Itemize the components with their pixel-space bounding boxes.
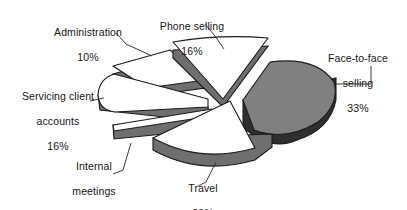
pie-label-phone-selling-value: 16% bbox=[140, 45, 244, 57]
pie-label-servicing-client-accounts-name-line2: accounts bbox=[2, 115, 114, 127]
pie-label-internal-meetings: Internal meetings 5 bbox=[42, 148, 146, 210]
pie-label-administration: Administration 10% bbox=[30, 14, 146, 76]
pie-label-servicing-client-accounts-name-line1: Servicing client bbox=[2, 90, 114, 102]
pie-label-travel: Travel 20% bbox=[155, 170, 251, 210]
pie-label-administration-name: Administration bbox=[30, 26, 146, 38]
pie-label-face-to-face-selling-name-line1: Face-to-face bbox=[312, 52, 404, 64]
pie-label-face-to-face-selling: Face-to-face selling 33% bbox=[312, 40, 404, 127]
pie-label-travel-name: Travel bbox=[155, 182, 251, 194]
pie-label-phone-selling-name: Phone selling bbox=[140, 20, 244, 32]
pie-chart: Administration 10% Phone selling 16% Fac… bbox=[0, 0, 407, 210]
pie-label-internal-meetings-name-line1: Internal bbox=[42, 160, 146, 172]
pie-label-travel-value: 20% bbox=[155, 207, 251, 210]
pie-label-administration-value: 10% bbox=[30, 51, 146, 63]
pie-label-face-to-face-selling-value: 33% bbox=[312, 102, 404, 114]
pie-label-internal-meetings-name-line2: meetings bbox=[42, 185, 146, 197]
pie-label-phone-selling: Phone selling 16% bbox=[140, 8, 244, 70]
pie-label-face-to-face-selling-name-line2: selling bbox=[312, 77, 404, 89]
